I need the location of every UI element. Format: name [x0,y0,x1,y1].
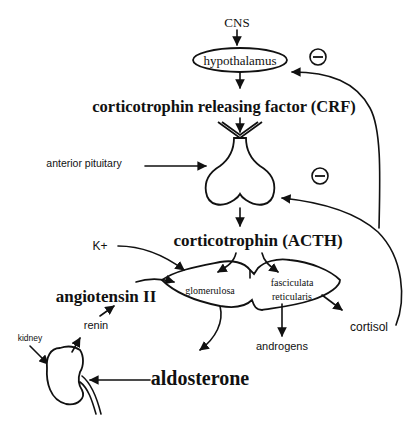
aldosterone-label: aldosterone [151,367,250,389]
angiotensin-label: angiotensin II [56,287,157,306]
inhibit-pituitary-icon [312,168,328,184]
k-plus-label: K+ [92,239,107,253]
ureter-2 [82,376,101,414]
cortisol-label: cortisol [350,320,388,334]
renin-label: renin [84,319,108,331]
hpa-axis-diagram: CNS hypothalamus corticotrophin releasin… [0,0,419,426]
crf-label: corticotrophin releasing factor (CRF) [92,97,355,116]
renin-to-angiotensin-arrow [100,306,114,316]
reticularis-label: reticularis [272,291,312,302]
hypothalamus-label: hypothalamus [204,53,277,68]
anterior-pituitary-label: anterior pituitary [46,157,122,169]
pituitary-outline [206,138,275,205]
cns-label: CNS [224,15,249,30]
kidney-node [47,347,83,405]
glomerulosa-label: glomerulosa [185,285,235,296]
cortisol-feedback-to-hypothalamus [292,72,380,228]
glomerulosa-to-aldosterone-arrow [200,306,221,350]
kidney-pointer [30,346,48,364]
fasciculata-label: fasciculata [271,277,314,288]
cortex-to-cortisol-arrow [322,295,342,310]
kidney-label: kidney [18,333,43,343]
inhibit-hypothalamus-icon [310,49,326,65]
androgens-label: androgens [256,340,308,352]
acth-label: corticotrophin (ACTH) [173,231,342,250]
